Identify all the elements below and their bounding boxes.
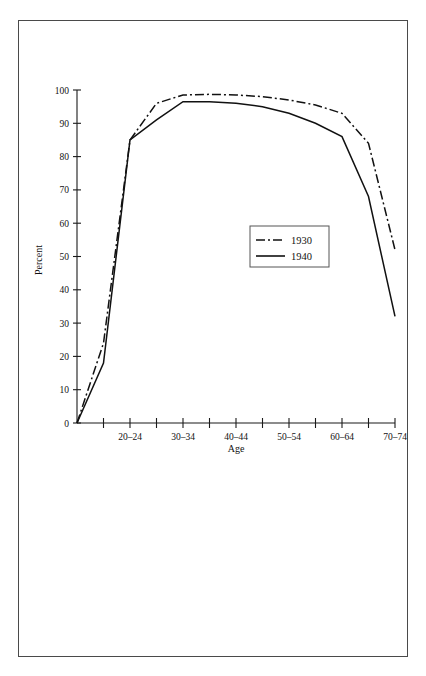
x-tick-label-50-54: 50–54 (277, 432, 301, 442)
series-line-1930 (77, 94, 395, 423)
y-tick-label-70: 70 (60, 185, 70, 195)
y-tick-label-30: 30 (60, 319, 70, 329)
y-axis-tick-labels: 0102030405060708090100 (55, 86, 70, 429)
chart-legend: 1930 1940 (250, 226, 329, 267)
x-axis-tick-labels: 20–2430–3440–4450–5460–6470–74 (118, 432, 407, 442)
y-axis: 0102030405060708090100 (55, 86, 81, 429)
figure-root: 0102030405060708090100 20–2430–3440–4450… (0, 0, 426, 676)
y-tick-label-0: 0 (64, 419, 69, 429)
y-tick-label-80: 80 (60, 152, 70, 162)
y-tick-label-100: 100 (55, 86, 70, 96)
x-tick-label-70-74: 70–74 (383, 432, 407, 442)
x-tick-label-60-64: 60–64 (330, 432, 354, 442)
legend-label-1930: 1930 (291, 235, 312, 246)
x-tick-label-20-24: 20–24 (118, 432, 142, 442)
y-tick-label-50: 50 (60, 252, 70, 262)
chart-plot-area: 0102030405060708090100 20–2430–3440–4450… (0, 0, 426, 676)
y-tick-label-20: 20 (60, 352, 70, 362)
y-tick-label-60: 60 (60, 219, 70, 229)
x-tick-label-30-34: 30–34 (171, 432, 195, 442)
x-tick-label-40-44: 40–44 (224, 432, 248, 442)
series-line-1940 (77, 102, 395, 423)
legend-box (250, 226, 329, 267)
legend-label-1940: 1940 (291, 251, 312, 262)
y-axis-title: Percent (33, 245, 44, 275)
line-chart-svg: 0102030405060708090100 20–2430–3440–4450… (0, 0, 426, 676)
x-axis-title: Age (228, 443, 245, 454)
x-axis: 20–2430–3440–4450–5460–6470–74 (77, 418, 407, 442)
data-series-group (77, 94, 395, 423)
y-tick-label-40: 40 (60, 285, 70, 295)
y-tick-label-10: 10 (60, 385, 70, 395)
y-tick-label-90: 90 (60, 119, 70, 129)
